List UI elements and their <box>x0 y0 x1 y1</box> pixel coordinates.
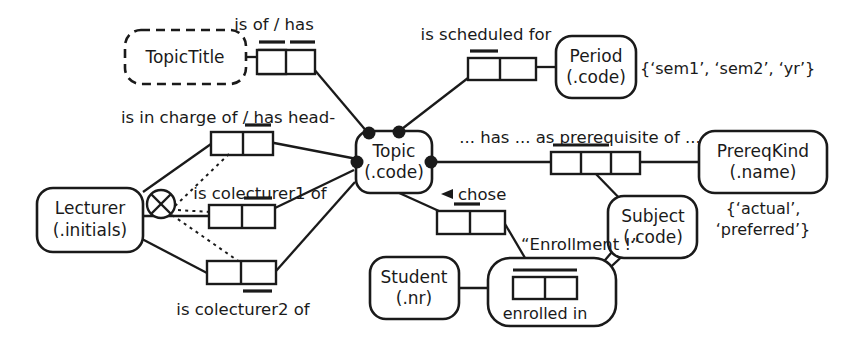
period-value-constraint: {‘sem1’, ‘sem2’, ‘yr’} <box>640 59 815 78</box>
period-ref-mode: (.code) <box>566 67 626 87</box>
predicate-is-of-has-label: is of / has <box>234 15 314 34</box>
predicate-is-colecturer1-of-label: is colecturer1 of <box>193 184 328 203</box>
predicate-chose[interactable]: chose <box>437 185 506 234</box>
topic-name: Topic <box>372 141 416 161</box>
subject-name: Subject <box>621 206 685 226</box>
prereqkind-value-constraint-line2: ‘preferred’} <box>716 220 811 239</box>
prereqkind-value-constraint: {‘actual’, ‘preferred’} <box>716 199 811 239</box>
role-box-has[interactable] <box>257 50 286 74</box>
lecturer-name: Lecturer <box>55 198 125 218</box>
predicate-is-colecturer2-of-label: is colecturer2 of <box>176 300 311 319</box>
predicate-is-in-charge-of-label: is in charge of / has head- <box>121 108 335 127</box>
student-name: Student <box>381 267 448 287</box>
predicate-is-colecturer1-of[interactable]: is colecturer1 of <box>193 184 328 228</box>
connector-colect2-lecturer <box>142 239 207 273</box>
lecturer-ref-mode: (.initials) <box>53 220 127 240</box>
object-lecturer[interactable]: Lecturer (.initials) <box>37 188 143 252</box>
prereqkind-value-constraint-line1: {‘actual’, <box>726 199 801 218</box>
role-box-prereq[interactable] <box>551 152 640 174</box>
enrolledin-label: enrolled in <box>503 304 588 323</box>
connector-scheduled-topic <box>398 78 468 132</box>
chose-arrow-icon <box>441 189 453 199</box>
student-ref-mode: (.nr) <box>396 288 432 308</box>
mandatory-dot-topic-left <box>351 156 364 169</box>
object-topictitle[interactable]: TopicTitle <box>125 30 246 84</box>
role-box-scheduled-left[interactable] <box>468 58 536 80</box>
orm-diagram-canvas: TopicTitle is of / has is scheduled for … <box>0 0 858 341</box>
object-period[interactable]: Period (.code) <box>556 36 636 98</box>
orm-diagram-svg: TopicTitle is of / has is scheduled for … <box>0 0 858 341</box>
topic-ref-mode: (.code) <box>364 162 424 182</box>
object-enrollment-nested[interactable]: enrolled in <box>488 258 616 326</box>
predicate-is-scheduled-for[interactable]: is scheduled for <box>421 25 552 80</box>
object-student[interactable]: Student (.nr) <box>370 257 459 319</box>
object-topic[interactable]: Topic (.code) <box>356 131 432 193</box>
mandatory-dot-topic-topleft <box>363 127 376 140</box>
predicate-is-colecturer2-of[interactable]: is colecturer2 of <box>176 261 311 319</box>
period-name: Period <box>569 46 622 66</box>
mandatory-dot-topic-topright <box>393 126 406 139</box>
object-prereqkind[interactable]: PrereqKind (.name) <box>699 131 827 193</box>
connector-incharge-topic <box>269 142 357 159</box>
enrollment-objectification-name: “Enrollment !” <box>521 235 640 254</box>
prereqkind-ref-mode: (.name) <box>730 162 797 182</box>
predicate-prerequisite[interactable]: ... has ... as prerequisite of ... <box>459 128 700 174</box>
predicate-is-scheduled-for-label: is scheduled for <box>421 25 552 44</box>
prereqkind-name: PrereqKind <box>717 141 809 161</box>
predicate-chose-label: chose <box>458 185 506 204</box>
mandatory-dot-topic-right <box>425 156 438 169</box>
topictitle-label: TopicTitle <box>144 47 224 67</box>
